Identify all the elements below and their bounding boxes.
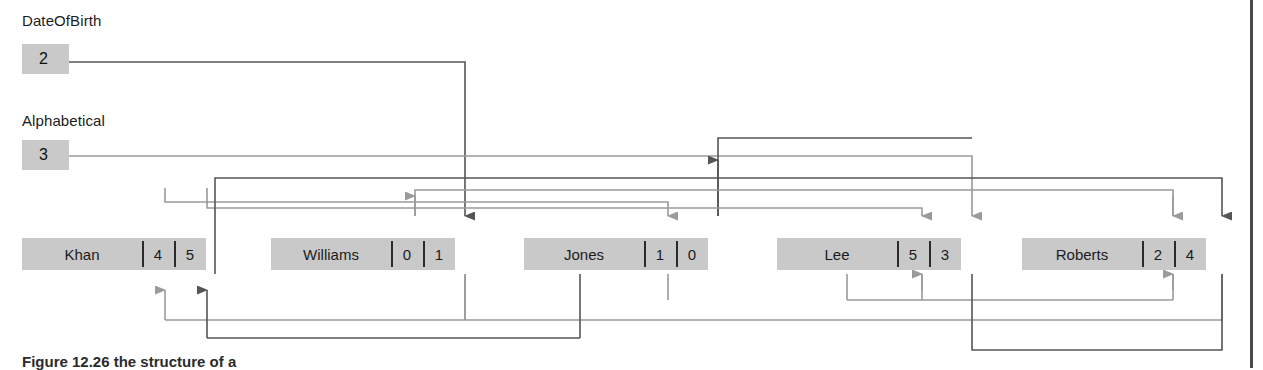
record-name: Lee	[777, 238, 897, 270]
record-pointer-1[interactable]: 0	[391, 238, 423, 270]
record-node[interactable]: Lee 5 3	[777, 238, 961, 270]
head-label-alphabetical: Alphabetical	[22, 112, 105, 129]
page-margin-rule	[1250, 0, 1253, 368]
figure-caption: Figure 12.26 the structure of a	[22, 353, 236, 370]
record-name: Khan	[22, 238, 142, 270]
record-pointer-2[interactable]: 4	[1174, 238, 1206, 270]
record-node[interactable]: Roberts 2 4	[1022, 238, 1206, 270]
record-pointer-1[interactable]: 1	[644, 238, 676, 270]
record-pointer-2[interactable]: 5	[174, 238, 206, 270]
record-node[interactable]: Jones 1 0	[524, 238, 708, 270]
head-label-dateofbirth: DateOfBirth	[22, 12, 101, 29]
head-pointer-alphabetical[interactable]: 3	[22, 140, 69, 170]
record-node[interactable]: Williams 0 1	[271, 238, 455, 270]
record-pointer-1[interactable]: 4	[142, 238, 174, 270]
head-pointer-dateofbirth-value: 2	[39, 50, 48, 68]
record-name: Roberts	[1022, 238, 1142, 270]
head-pointer-dateofbirth[interactable]: 2	[22, 44, 69, 74]
record-node[interactable]: Khan 4 5	[22, 238, 206, 270]
record-pointer-1[interactable]: 2	[1142, 238, 1174, 270]
record-pointer-2[interactable]: 3	[929, 238, 961, 270]
record-name: Williams	[271, 238, 391, 270]
record-pointer-1[interactable]: 5	[897, 238, 929, 270]
record-name: Jones	[524, 238, 644, 270]
record-pointer-2[interactable]: 1	[423, 238, 455, 270]
record-pointer-2[interactable]: 0	[676, 238, 708, 270]
head-pointer-alphabetical-value: 3	[39, 146, 48, 164]
